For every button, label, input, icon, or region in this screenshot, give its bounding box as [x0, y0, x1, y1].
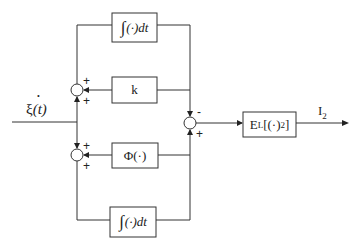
output-summer-sign-top: -	[197, 106, 201, 118]
gain-label: k	[112, 77, 157, 103]
upper-summing-junction	[71, 84, 83, 96]
integrator-bottom-body: (·)dt	[125, 214, 147, 230]
integrator-bottom-label: ∫(·)dt	[110, 207, 156, 237]
integrator-top-to-output-summer-wire	[157, 25, 190, 116]
arrow-down-icon	[187, 111, 193, 117]
output-summer-sign-bottom: +	[196, 128, 203, 140]
output-summing-junction	[184, 117, 196, 129]
integrator-top-label: ∫(·)dt	[112, 13, 157, 42]
lower-summer-sign-top: +	[83, 140, 90, 152]
integrator-bottom-to-output-summer-wire	[156, 130, 190, 220]
expectation-body: [(·)	[263, 117, 280, 133]
expectation-operator: E	[250, 117, 258, 133]
nonlinearity-label: Φ(·)	[112, 143, 158, 168]
arrow-right-icon	[342, 120, 349, 126]
integral-icon: ∫	[121, 18, 126, 38]
lower-summer-to-integrator-wire	[77, 161, 110, 220]
input-arg: (t)	[33, 101, 47, 117]
lower-summer-sign-bottom: +	[83, 160, 90, 172]
arrow-up-icon	[187, 129, 193, 135]
expectation-label: EL[(·)2]	[243, 112, 296, 137]
integral-icon: ∫	[119, 212, 124, 232]
block-diagram	[0, 0, 359, 247]
output-label: I2	[318, 104, 327, 121]
arrow-down-icon	[74, 143, 80, 149]
lower-summing-junction	[71, 149, 83, 161]
derivative-dot-icon: •	[37, 93, 40, 101]
upper-summer-sign-bottom: +	[83, 95, 90, 107]
input-symbol: ξ	[26, 101, 33, 117]
expectation-close: ]	[285, 117, 289, 133]
input-label: ξ(t)	[26, 102, 47, 117]
arrow-up-icon	[74, 96, 80, 102]
output-subscript: 2	[322, 111, 327, 121]
upper-summer-sign-top: +	[83, 75, 90, 87]
integrator-top-body: (·)dt	[126, 20, 148, 36]
